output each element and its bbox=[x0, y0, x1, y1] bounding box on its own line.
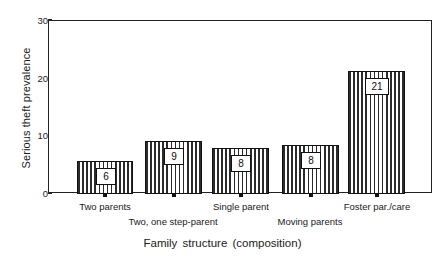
data-label-two-one-step-parent: 9 bbox=[164, 148, 184, 165]
data-label-foster-par-care: 21 bbox=[365, 78, 389, 95]
x-tick-mark-two-one-step-parent bbox=[172, 193, 176, 197]
x-tick-mark-foster-par-care bbox=[375, 193, 379, 197]
x-tick-mark-single-parent bbox=[239, 193, 243, 197]
y-tick-label-30: 30 bbox=[28, 16, 48, 25]
bar-chart-figure: Serious theft prevalence 30 20 10 0 6 9 … bbox=[0, 0, 445, 261]
y-tick-label-10: 10 bbox=[28, 131, 48, 140]
x-category-label-foster-par-care: Foster par./care bbox=[344, 202, 411, 212]
x-tick-mark-moving-parents bbox=[309, 193, 313, 197]
x-category-label-two-one-step-parent: Two, one step-parent bbox=[128, 217, 217, 227]
data-label-two-parents: 6 bbox=[96, 168, 116, 185]
x-axis-title: Family structure (composition) bbox=[0, 236, 445, 250]
data-label-moving-parents: 8 bbox=[301, 152, 321, 169]
y-tick-label-20: 20 bbox=[28, 74, 48, 83]
data-label-single-parent: 8 bbox=[231, 155, 251, 172]
x-category-label-moving-parents: Moving parents bbox=[278, 217, 343, 227]
x-category-label-two-parents: Two parents bbox=[79, 202, 131, 212]
y-tick-label-0: 0 bbox=[28, 189, 48, 198]
x-category-label-single-parent: Single parent bbox=[213, 202, 269, 212]
x-tick-mark-two-parents bbox=[103, 193, 107, 197]
y-axis-ticks: 30 20 10 0 bbox=[0, 0, 48, 261]
